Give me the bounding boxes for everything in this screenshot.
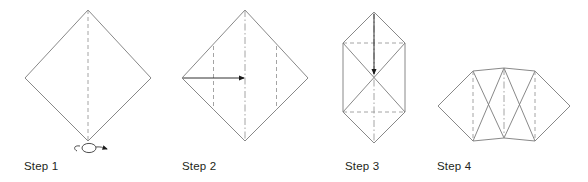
origami-diagram-canvas — [0, 0, 588, 182]
step-1-diagram — [25, 10, 151, 153]
origami-instruction-figure: Step 1 Step 2 Step 3 Step 4 — [0, 0, 588, 182]
step-4-label: Step 4 — [437, 160, 471, 172]
step-4-diagonal-crease-4 — [504, 68, 535, 141]
step-3-label: Step 3 — [345, 160, 379, 172]
step-4-diagonal-crease-3 — [473, 68, 504, 141]
step-1-label: Step 1 — [24, 160, 58, 172]
step-2-diagram — [182, 10, 308, 141]
turn-over-icon — [75, 143, 107, 152]
step-3-diagram — [343, 12, 405, 143]
step-2-label: Step 2 — [182, 160, 216, 172]
step-4-diagram — [438, 68, 570, 141]
